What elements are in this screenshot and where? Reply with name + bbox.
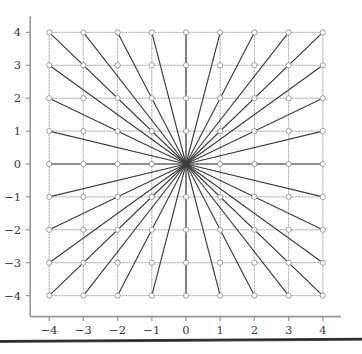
- lattice-point-marker: [252, 129, 257, 134]
- lattice-point-marker: [47, 161, 52, 166]
- y-tick-label: 3: [14, 58, 21, 72]
- lattice-point-marker: [47, 129, 52, 134]
- lattice-point-marker: [286, 129, 291, 134]
- lattice-point-marker: [149, 161, 154, 166]
- lattice-point-marker: [47, 96, 52, 101]
- lattice-point-marker: [252, 96, 257, 101]
- lattice-point-marker: [218, 96, 223, 101]
- lattice-point-marker: [47, 194, 52, 199]
- lattice-point-marker: [218, 260, 223, 265]
- x-tick-label: 2: [251, 323, 258, 337]
- lattice-point-marker: [115, 227, 120, 232]
- lattice-point-marker: [81, 293, 86, 298]
- tick-group: −4−3−2−101234−4−3−2−101234: [4, 25, 326, 336]
- y-tick-label: −3: [4, 256, 21, 270]
- lattice-point-marker: [115, 260, 120, 265]
- x-tick-label: −3: [75, 323, 92, 337]
- lattice-point-marker: [252, 161, 257, 166]
- lattice-point-marker: [81, 161, 86, 166]
- lattice-point-marker: [252, 194, 257, 199]
- x-tick-label: 0: [182, 323, 189, 337]
- lattice-point-marker: [149, 194, 154, 199]
- lattice-point-marker: [252, 293, 257, 298]
- lattice-point-marker: [47, 260, 52, 265]
- lattice-point-marker: [81, 260, 86, 265]
- lattice-point-marker: [320, 161, 325, 166]
- lattice-point-marker: [115, 30, 120, 35]
- lattice-point-marker: [115, 293, 120, 298]
- lattice-point-marker: [149, 293, 154, 298]
- lattice-point-marker: [183, 96, 188, 101]
- lattice-point-marker: [252, 260, 257, 265]
- lattice-point-marker: [47, 227, 52, 232]
- y-tick-label: −4: [4, 289, 21, 303]
- lattice-point-marker: [47, 293, 52, 298]
- x-tick-label: −1: [143, 323, 160, 337]
- lattice-point-marker: [115, 63, 120, 68]
- lattice-point-marker: [218, 194, 223, 199]
- lattice-point-marker: [320, 63, 325, 68]
- lattice-point-marker: [47, 63, 52, 68]
- lattice-point-marker: [149, 96, 154, 101]
- lattice-point-marker: [115, 194, 120, 199]
- y-tick-label: −1: [4, 190, 21, 204]
- lattice-point-marker: [81, 30, 86, 35]
- lattice-point-marker: [149, 30, 154, 35]
- lattice-point-marker: [252, 227, 257, 232]
- lattice-point-marker: [81, 194, 86, 199]
- lattice-point-marker: [286, 161, 291, 166]
- lattice-point-marker: [149, 227, 154, 232]
- lattice-point-marker: [149, 260, 154, 265]
- x-tick-label: −4: [41, 323, 58, 337]
- lattice-point-marker: [218, 293, 223, 298]
- y-tick-label: 1: [14, 124, 21, 138]
- lattice-point-marker: [218, 129, 223, 134]
- x-tick-label: 4: [319, 323, 326, 337]
- lattice-point-marker: [183, 30, 188, 35]
- lattice-point-marker: [218, 161, 223, 166]
- lattice-point-marker: [183, 227, 188, 232]
- lattice-point-marker: [47, 30, 52, 35]
- y-tick-label: −2: [4, 223, 21, 237]
- lattice-point-marker: [286, 63, 291, 68]
- x-tick-label: 1: [217, 323, 224, 337]
- lattice-point-marker: [286, 96, 291, 101]
- lattice-point-marker: [320, 129, 325, 134]
- lattice-point-marker: [115, 96, 120, 101]
- lattice-point-marker: [320, 96, 325, 101]
- lattice-point-marker: [183, 194, 188, 199]
- lattice-point-marker: [286, 30, 291, 35]
- lattice-point-marker: [183, 63, 188, 68]
- lattice-point-marker: [286, 293, 291, 298]
- lattice-point-marker: [286, 227, 291, 232]
- lattice-point-marker: [252, 63, 257, 68]
- y-tick-label: 0: [14, 157, 21, 171]
- lattice-point-marker: [183, 129, 188, 134]
- lattice-point-marker: [320, 293, 325, 298]
- y-tick-label: 4: [14, 25, 21, 39]
- y-tick-label: 2: [14, 91, 21, 105]
- lattice-point-marker: [218, 63, 223, 68]
- lattice-point-marker: [183, 293, 188, 298]
- lattice-point-marker: [252, 30, 257, 35]
- lattice-point-marker: [286, 194, 291, 199]
- x-tick-label: −2: [109, 323, 126, 337]
- x-tick-label: 3: [285, 323, 292, 337]
- lattice-point-marker: [115, 129, 120, 134]
- lattice-point-marker: [115, 161, 120, 166]
- lattice-point-marker: [286, 260, 291, 265]
- lattice-point-marker: [218, 30, 223, 35]
- lattice-point-marker: [81, 227, 86, 232]
- lattice-point-marker: [81, 63, 86, 68]
- lattice-point-marker: [81, 129, 86, 134]
- lattice-point-marker: [218, 227, 223, 232]
- lattice-point-marker: [320, 227, 325, 232]
- lattice-point-marker: [149, 129, 154, 134]
- lattice-point-marker: [320, 260, 325, 265]
- lattice-point-marker: [149, 63, 154, 68]
- lattice-point-marker: [320, 30, 325, 35]
- lattice-point-marker: [320, 194, 325, 199]
- lattice-point-marker: [81, 96, 86, 101]
